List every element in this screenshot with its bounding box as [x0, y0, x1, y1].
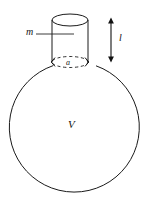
neck-length-arrowhead-bottom: [108, 57, 114, 63]
flask-diagram-svg: [0, 0, 150, 205]
neck-length-arrowhead-top: [108, 18, 114, 24]
neck-mass-label: m: [26, 27, 33, 37]
neck-bottom-ellipse-dashed: [52, 57, 88, 68]
vessel-volume-label: V: [68, 119, 75, 130]
neck-radius-label: a: [66, 59, 70, 67]
neck-length-label: l: [119, 33, 122, 43]
neck-top-ellipse: [52, 14, 88, 26]
figure-container: m a l V: [0, 0, 150, 205]
